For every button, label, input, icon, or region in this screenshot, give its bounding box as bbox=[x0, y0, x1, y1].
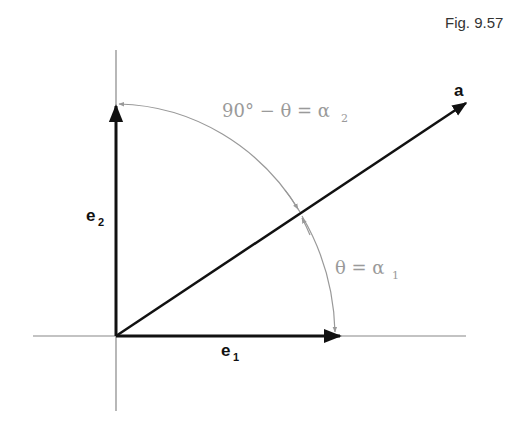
angle-label-alpha2: 90° − θ = α bbox=[222, 100, 330, 121]
angle-label-alpha1-sub: 1 bbox=[392, 269, 399, 282]
angle-label-alpha1: θ = α bbox=[335, 257, 385, 278]
arc-alpha1 bbox=[302, 216, 335, 332]
arc-alpha1-start bbox=[302, 218, 310, 235]
angle-label-alpha2-sub: 2 bbox=[341, 112, 348, 125]
vector-diagram: a e 2 e 1 90° − θ = α 2 θ = α 1 bbox=[0, 0, 521, 431]
label-e1: e bbox=[221, 341, 230, 360]
label-e2: e bbox=[86, 206, 95, 225]
vector-a bbox=[116, 103, 466, 336]
label-e1-sub: 1 bbox=[233, 351, 239, 363]
label-e2-sub: 2 bbox=[98, 216, 104, 228]
arc-alpha2-start bbox=[285, 190, 298, 209]
label-a: a bbox=[454, 81, 464, 100]
